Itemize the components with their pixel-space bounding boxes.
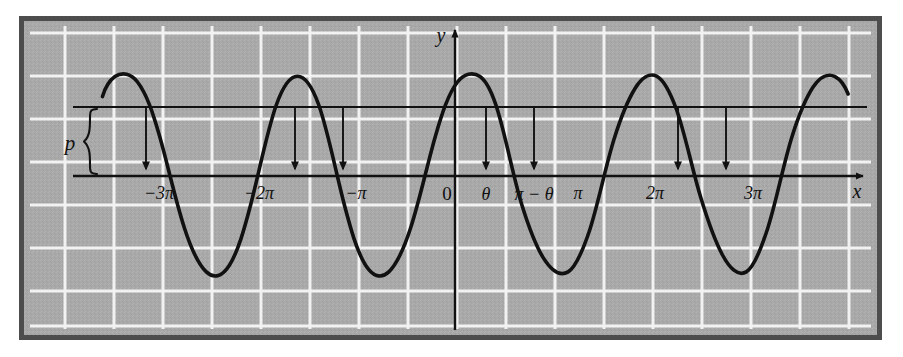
plot-area xyxy=(30,26,871,329)
x-tick-label-negpi: −π xyxy=(345,183,367,203)
sine-curve-figure: y x p −3π −2π −π 0 θ π − θ π 2π 3π xyxy=(0,0,903,357)
x-tick-label-pi-minus-theta: π − θ xyxy=(514,184,553,204)
x-tick-label-2pi: 2π xyxy=(646,183,665,203)
x-tick-label-neg3pi: −3π xyxy=(144,183,175,203)
x-tick-label-zero: 0 xyxy=(442,183,452,204)
x-tick-label-theta: θ xyxy=(482,184,491,204)
x-tick-label-3pi: 3π xyxy=(743,183,763,203)
x-tick-label-neg2pi: −2π xyxy=(244,183,275,203)
y-axis-label: y xyxy=(435,24,446,47)
x-tick-label-pi: π xyxy=(573,183,583,203)
figure-root: y x p −3π −2π −π 0 θ π − θ π 2π 3π xyxy=(0,0,903,357)
x-axis-label: x xyxy=(852,180,862,202)
p-label: p xyxy=(63,131,76,155)
